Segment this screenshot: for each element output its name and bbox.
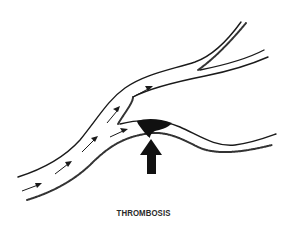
flow-arrow-icon (107, 106, 120, 123)
flow-arrow-icon (55, 161, 72, 174)
thrombosis-diagram (0, 0, 287, 229)
flow-arrows (22, 86, 153, 191)
indicator-arrow-icon (140, 139, 162, 174)
figure-caption: THROMBOSIS (11, 208, 275, 218)
flow-arrow-icon (133, 86, 153, 97)
vessel-top-branch-lower-wall (198, 23, 246, 70)
vessel-mid-branch-lower-wall (133, 57, 268, 97)
vessel-junction-wall (118, 97, 133, 124)
flow-arrow-icon (110, 128, 128, 137)
vessel-main-upper-wall (18, 22, 241, 177)
flow-arrow-icon (82, 136, 98, 152)
flow-arrow-icon (22, 183, 42, 191)
